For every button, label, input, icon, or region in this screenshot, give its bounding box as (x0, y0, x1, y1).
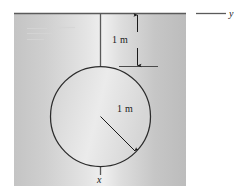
x-axis-label: x (97, 175, 101, 185)
figure-container: 1 m 1 m y x (0, 0, 251, 196)
top-dimension-label: 1 m (112, 35, 128, 45)
circle-diagram-svg (0, 0, 251, 196)
y-axis-label: y (229, 9, 233, 19)
radius-dimension-label: 1 m (117, 104, 133, 114)
